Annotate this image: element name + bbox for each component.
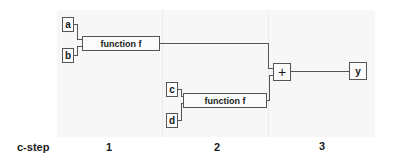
wire-b-v <box>77 46 78 56</box>
input-d-box: d <box>166 113 178 128</box>
input-c-box: c <box>166 82 178 97</box>
wire-f1-down <box>268 43 269 69</box>
step-divider-1-2 <box>162 10 163 137</box>
step-2-label: 2 <box>214 141 220 153</box>
input-a-box: a <box>62 17 74 32</box>
wire-a-v <box>77 24 78 40</box>
function-f-step1: function f <box>82 36 160 51</box>
step-1-label: 1 <box>106 141 112 153</box>
step-divider-2-3 <box>268 10 269 137</box>
c-step-label: c-step <box>17 141 49 153</box>
wire-adder-out <box>291 71 349 72</box>
output-y-box: y <box>349 62 367 80</box>
adder-plus-box: + <box>273 63 291 81</box>
wire-f2-up <box>269 75 270 101</box>
step-3-label: 3 <box>319 140 325 152</box>
diagram-background <box>57 10 375 137</box>
input-b-box: b <box>62 48 74 63</box>
function-f-step2: function f <box>183 93 267 108</box>
wire-f1-out <box>160 43 269 44</box>
wire-d-v <box>181 103 182 121</box>
